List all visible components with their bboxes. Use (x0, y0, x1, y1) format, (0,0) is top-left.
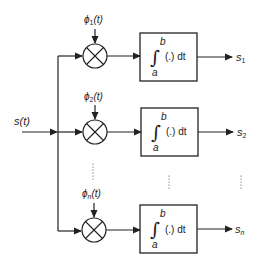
correlator-diagram: s(t) ϕ1(t) ∫ b a (.) dt s1 ϕ2(t) ∫ (0, 0, 261, 268)
output-label-1: s1 (236, 51, 246, 64)
lower-limit: a (153, 142, 159, 153)
branch-1: ϕ1(t) ∫ b a (.) dt s1 (58, 14, 246, 81)
integrand: (.) dt (165, 224, 186, 235)
output-label-2: s2 (237, 126, 247, 139)
input-label: s(t) (14, 115, 30, 127)
integrand: (.) dt (166, 126, 187, 137)
lower-limit: a (152, 67, 158, 78)
integral-icon: ∫ (151, 121, 161, 143)
multiplier-icon (82, 218, 106, 242)
branch-2: ϕ2(t) ∫ b a (.) dt s2 (58, 91, 247, 156)
multiplier-icon (83, 120, 107, 144)
integral-icon: ∫ (150, 218, 160, 240)
integrand: (.) dt (165, 51, 186, 62)
upper-limit: b (161, 111, 167, 122)
basis-label-n: ϕn(t) (82, 188, 101, 200)
basis-label-2: ϕ2(t) (84, 91, 103, 103)
lower-limit: a (152, 239, 158, 250)
upper-limit: b (160, 36, 166, 47)
branch-n: ϕn(t) ∫ b a (.) dt sn (58, 188, 245, 253)
upper-limit: b (160, 208, 166, 219)
multiplier-icon (83, 44, 107, 68)
integral-icon: ∫ (150, 46, 160, 68)
basis-label-1: ϕ1(t) (84, 14, 103, 26)
ellipsis (92, 163, 241, 188)
output-label-n: sn (235, 223, 245, 236)
